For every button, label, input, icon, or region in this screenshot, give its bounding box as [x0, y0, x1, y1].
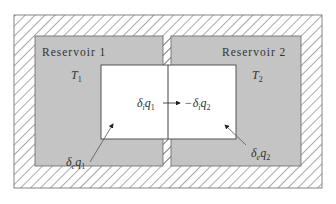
reservoir-2-label: Reservoir 2 — [222, 46, 286, 58]
reservoir-diagram: Reservoir 1 Reservoir 2 T1 T2 δiq1 −δiq2… — [0, 0, 336, 204]
reservoir-1-label: Reservoir 1 — [42, 46, 106, 58]
